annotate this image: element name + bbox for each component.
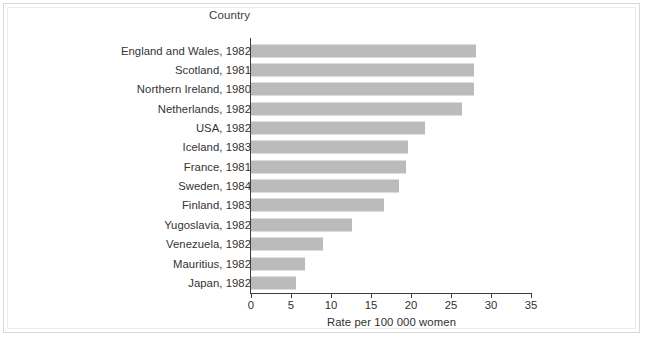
bar	[251, 276, 296, 289]
x-tick-label: 10	[325, 299, 338, 311]
category-label: Northern Ireland, 1980	[0, 83, 258, 95]
bar-row: Northern Ireland, 1980	[0, 80, 647, 99]
x-tick	[251, 293, 252, 298]
bar	[251, 83, 474, 96]
x-axis-line	[250, 293, 532, 294]
category-label: Iceland, 1983	[0, 141, 258, 153]
figure: Country England and Wales, 1982Scotland,…	[0, 0, 647, 343]
x-axis-title: Rate per 100 000 women	[251, 316, 532, 328]
category-label: England and Wales, 1982	[0, 45, 258, 57]
bar-row: Netherlands, 1982	[0, 99, 647, 118]
category-label: France, 1981	[0, 161, 258, 173]
category-label: Netherlands, 1982	[0, 103, 258, 115]
x-tick	[371, 293, 372, 298]
x-tick	[451, 293, 452, 298]
bar	[251, 218, 352, 231]
x-tick	[531, 293, 532, 298]
category-label: Yugoslavia, 1982	[0, 219, 258, 231]
plot-area: England and Wales, 1982Scotland, 1981Nor…	[0, 0, 647, 343]
bar	[251, 257, 305, 270]
bar	[251, 238, 323, 251]
category-label: Mauritius, 1982	[0, 258, 258, 270]
x-tick-label: 5	[288, 299, 294, 311]
x-tick-label: 15	[365, 299, 378, 311]
x-tick-label: 30	[485, 299, 498, 311]
bar-row: England and Wales, 1982	[0, 41, 647, 60]
x-tick-label: 25	[445, 299, 458, 311]
bar	[251, 180, 399, 193]
bar-row: Venezuela, 1982	[0, 235, 647, 254]
bar	[251, 102, 462, 115]
bar-row: Finland, 1983	[0, 196, 647, 215]
bar	[251, 122, 425, 135]
bar	[251, 44, 476, 57]
bar-row: Iceland, 1983	[0, 138, 647, 157]
category-label: USA, 1982	[0, 122, 258, 134]
x-tick	[331, 293, 332, 298]
bar	[251, 141, 408, 154]
category-label: Finland, 1983	[0, 199, 258, 211]
bar-row: Sweden, 1984	[0, 176, 647, 195]
x-tick-label: 20	[405, 299, 418, 311]
bar-row: Yugoslavia, 1982	[0, 215, 647, 234]
bar-row: USA, 1982	[0, 118, 647, 137]
x-tick-label: 0	[248, 299, 254, 311]
category-label: Sweden, 1984	[0, 180, 258, 192]
bar-row: Mauritius, 1982	[0, 254, 647, 273]
bar	[251, 64, 474, 77]
bar-row: France, 1981	[0, 157, 647, 176]
x-tick	[491, 293, 492, 298]
x-tick	[291, 293, 292, 298]
x-tick-label: 35	[525, 299, 538, 311]
category-label: Venezuela, 1982	[0, 238, 258, 250]
bar	[251, 199, 384, 212]
category-label: Japan, 1982	[0, 277, 258, 289]
category-label: Scotland, 1981	[0, 64, 258, 76]
x-tick	[411, 293, 412, 298]
bar	[251, 160, 406, 173]
bar-row: Japan, 1982	[0, 273, 647, 292]
bar-row: Scotland, 1981	[0, 60, 647, 79]
